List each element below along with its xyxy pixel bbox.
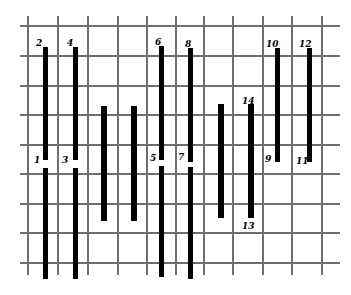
grid-horizontal-line — [20, 144, 340, 146]
bar-number-label: 12 — [299, 40, 312, 49]
bar-mid-a — [101, 106, 107, 221]
bar-3 — [73, 168, 78, 279]
bar-number-label: 4 — [67, 39, 73, 48]
bar-number-label: 8 — [185, 40, 191, 49]
bar-4 — [73, 47, 78, 160]
grid-horizontal-line — [20, 232, 340, 234]
bar-5 — [159, 166, 164, 277]
bar-number-label: 14 — [242, 97, 255, 106]
bar-6 — [159, 46, 164, 160]
bar-number-label: 1 — [34, 156, 40, 165]
bar-number-label: 2 — [36, 39, 42, 48]
bar-12-11 — [307, 48, 312, 162]
grid-horizontal-line — [20, 203, 340, 205]
bar-2 — [43, 47, 48, 160]
grid-horizontal-line — [20, 55, 340, 57]
grid-horizontal-line — [20, 114, 340, 116]
bar-mid-c — [218, 104, 224, 218]
bar-number-label: 5 — [150, 154, 156, 163]
grid-horizontal-line — [20, 173, 340, 175]
bar-10-9 — [275, 48, 280, 162]
bar-number-label: 13 — [242, 222, 255, 231]
bar-mid-b — [131, 106, 137, 221]
grid-diagram: 2468101214135791113 — [0, 0, 351, 295]
grid-horizontal-line — [20, 85, 340, 87]
bar-number-label: 10 — [266, 40, 279, 49]
bar-number-label: 6 — [155, 38, 161, 47]
bar-1 — [43, 168, 48, 279]
bar-number-label: 11 — [296, 157, 309, 166]
grid-horizontal-line — [20, 262, 340, 264]
bar-14-13 — [248, 104, 254, 218]
bar-number-label: 7 — [178, 153, 184, 162]
grid-horizontal-line — [20, 25, 340, 27]
bar-number-label: 9 — [265, 155, 271, 164]
bar-7 — [188, 167, 193, 279]
bar-8 — [188, 48, 193, 162]
bar-number-label: 3 — [62, 156, 68, 165]
